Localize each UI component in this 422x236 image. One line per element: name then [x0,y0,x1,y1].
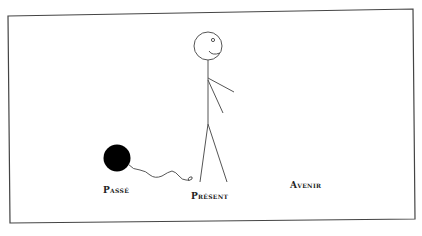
label-present: Présent [191,191,228,201]
head-icon [194,32,222,60]
label-past: Passé [103,185,129,195]
ball-and-chain-icon [104,145,193,182]
eye-icon [211,38,214,41]
smile-icon [209,51,220,54]
stick-figure-icon [194,32,234,182]
diagram-canvas: Passé Présent Avenir [0,0,422,236]
chain-icon [128,164,192,181]
label-future: Avenir [290,180,321,190]
ball-icon [104,145,131,172]
